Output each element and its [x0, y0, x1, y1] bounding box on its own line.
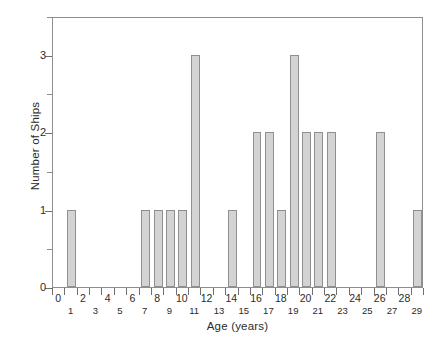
x-tick-label-15: 15 — [232, 305, 256, 316]
x-tick-label-27: 27 — [380, 305, 404, 316]
bar-age-18 — [277, 210, 286, 287]
bar-age-19 — [290, 55, 299, 287]
y-tick-label-0: 0 — [6, 281, 46, 293]
histogram-chart: Number of Ships 0123 0123456789101112131… — [0, 0, 445, 348]
bar-age-22 — [327, 132, 336, 287]
bar-age-9 — [166, 210, 175, 287]
x-tick-label-16: 16 — [244, 292, 268, 304]
bar-age-17 — [265, 132, 274, 287]
x-tick-label-26: 26 — [368, 292, 392, 304]
y-tick-minor-1.5 — [47, 172, 52, 173]
x-tick-label-5: 5 — [108, 305, 132, 316]
x-tick-label-19: 19 — [281, 305, 305, 316]
x-axis-title: Age (years) — [52, 320, 423, 332]
y-tick-1 — [45, 211, 52, 212]
bar-age-21 — [314, 132, 323, 287]
x-tick-label-2: 2 — [71, 292, 95, 304]
bar-age-7 — [141, 210, 150, 287]
bar-age-10 — [178, 210, 187, 287]
x-tick-label-13: 13 — [207, 305, 231, 316]
bar-age-16 — [253, 132, 262, 287]
bars-layer — [53, 18, 422, 287]
x-tick-label-4: 4 — [96, 292, 120, 304]
x-tick-label-1: 1 — [59, 305, 83, 316]
plot-area — [52, 17, 423, 288]
y-tick-label-1: 1 — [6, 204, 46, 216]
x-tick-label-14: 14 — [219, 292, 243, 304]
x-tick-label-6: 6 — [120, 292, 144, 304]
x-tick-label-0: 0 — [46, 292, 70, 304]
x-tick-label-24: 24 — [343, 292, 367, 304]
x-tick-label-20: 20 — [294, 292, 318, 304]
x-tick-label-25: 25 — [355, 305, 379, 316]
bar-age-20 — [302, 132, 311, 287]
y-tick-label-2: 2 — [6, 126, 46, 138]
x-tick-30 — [423, 288, 424, 295]
y-tick-label-3: 3 — [6, 49, 46, 61]
y-tick-minor-3.5 — [47, 17, 52, 18]
x-tick-label-18: 18 — [269, 292, 293, 304]
x-tick-label-22: 22 — [318, 292, 342, 304]
bar-age-8 — [154, 210, 163, 287]
y-tick-0 — [45, 288, 52, 289]
x-tick-label-23: 23 — [331, 305, 355, 316]
bar-age-14 — [228, 210, 237, 287]
x-tick-label-29: 29 — [405, 305, 429, 316]
y-tick-minor-2.5 — [47, 94, 52, 95]
x-tick-label-11: 11 — [182, 305, 206, 316]
y-tick-3 — [45, 56, 52, 57]
x-tick-label-17: 17 — [256, 305, 280, 316]
x-tick-label-3: 3 — [83, 305, 107, 316]
y-tick-2 — [45, 133, 52, 134]
x-tick-label-21: 21 — [306, 305, 330, 316]
x-tick-label-9: 9 — [157, 305, 181, 316]
x-tick-label-8: 8 — [145, 292, 169, 304]
x-tick-label-7: 7 — [133, 305, 157, 316]
x-tick-label-10: 10 — [170, 292, 194, 304]
bar-age-1 — [67, 210, 76, 287]
x-tick-label-28: 28 — [392, 292, 416, 304]
bar-age-26 — [376, 132, 385, 287]
bar-age-29 — [413, 210, 422, 287]
y-tick-minor-0.5 — [47, 249, 52, 250]
bar-age-11 — [191, 55, 200, 287]
x-tick-label-12: 12 — [195, 292, 219, 304]
